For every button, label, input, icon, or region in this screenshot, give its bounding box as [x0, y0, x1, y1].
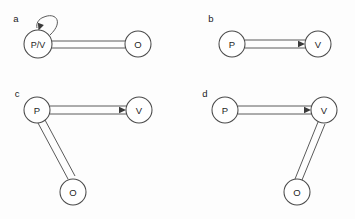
panel-c: cPVO [15, 88, 152, 206]
panel-label-b: b [208, 13, 213, 24]
node-d-o[interactable]: O [284, 179, 310, 205]
edge-c-p-to-o [38, 120, 75, 179]
node-label-pv: P/V [31, 40, 46, 50]
edge-line-upper [38, 123, 68, 179]
node-label-p: P [229, 39, 235, 50]
edge-c-p-to-v [50, 106, 127, 114]
edge-b-p-to-v [245, 40, 306, 48]
node-label-v: V [315, 39, 322, 50]
arrowhead-c-p-to-v [119, 107, 126, 113]
node-label-p: P [222, 105, 228, 116]
panel-b: bPV [208, 13, 331, 58]
arrowhead-b-p-to-v [298, 41, 305, 47]
node-label-o: O [293, 187, 300, 198]
node-label-v: V [136, 105, 143, 116]
panel-label-c: c [15, 88, 20, 99]
node-a-pv[interactable]: P/V [24, 30, 52, 58]
panel-label-d: d [202, 88, 207, 99]
panel-d: dPVO [202, 88, 337, 206]
node-a-o[interactable]: O [125, 31, 151, 57]
node-c-v[interactable]: V [126, 97, 152, 123]
node-c-p[interactable]: P [24, 97, 50, 123]
node-b-v[interactable]: V [305, 31, 331, 57]
node-c-o[interactable]: O [60, 179, 86, 205]
node-label-v: V [321, 105, 328, 116]
edge-d-p-to-v [238, 106, 312, 114]
arrowhead-d-p-to-v [304, 107, 311, 113]
figure-canvas: aP/VObPVcPVOdPVO [0, 0, 355, 219]
edge-a-pv-to-o [51, 41, 125, 48]
node-d-v[interactable]: V [311, 97, 337, 123]
node-b-p[interactable]: P [219, 31, 245, 57]
node-d-p[interactable]: P [212, 97, 238, 123]
panel-label-a: a [13, 13, 19, 24]
node-label-o: O [69, 187, 76, 198]
graph-diagram-svg: aP/VObPVcPVOdPVO [0, 0, 355, 219]
node-label-p: P [34, 105, 40, 116]
edge-line-lower [45, 120, 75, 176]
node-label-o: O [134, 39, 141, 50]
panel-a: aP/VO [13, 13, 151, 59]
edge-d-v-to-o [295, 122, 325, 180]
